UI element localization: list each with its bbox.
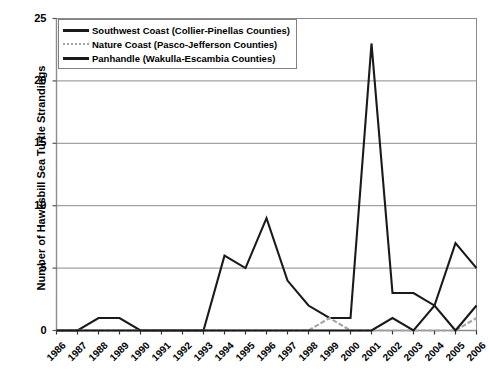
legend-label-panhandle: Panhandle (Wakulla-Escambia Counties): [92, 53, 275, 64]
legend-swatch-southwest-coast: [63, 25, 89, 35]
legend-item-nature-coast: Nature Coast (Pasco-Jefferson Counties): [63, 37, 290, 51]
chart-legend: Southwest Coast (Collier-Pinellas Counti…: [58, 19, 297, 69]
series-line-0: [57, 43, 477, 330]
chart-container: Number of Hawksbill Sea Turtle Stranding…: [0, 0, 489, 384]
legend-label-southwest-coast: Southwest Coast (Collier-Pinellas Counti…: [92, 25, 290, 36]
legend-item-panhandle: Panhandle (Wakulla-Escambia Counties): [63, 51, 290, 65]
legend-swatch-panhandle: [63, 53, 89, 63]
legend-label-nature-coast: Nature Coast (Pasco-Jefferson Counties): [92, 39, 277, 50]
legend-item-southwest-coast: Southwest Coast (Collier-Pinellas Counti…: [63, 23, 290, 37]
data-series: [57, 43, 477, 330]
series-line-1: [57, 318, 477, 330]
legend-swatch-nature-coast: [63, 39, 89, 49]
